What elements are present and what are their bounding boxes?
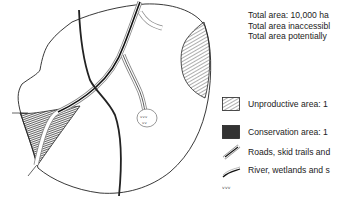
road-line-icon — [222, 144, 242, 160]
svg-text:ᵥᵥ: ᵥᵥ — [142, 118, 148, 125]
unproductive-area — [181, 22, 210, 98]
river — [79, 10, 121, 196]
legend-unproductive: Unproductive area: 1 — [222, 96, 240, 112]
legend-conservation: Conservation area: 1 — [222, 124, 240, 140]
wetland-symbol-icon: ᵥᵥᵥ — [222, 181, 242, 191]
stat-inaccessible: Total area inaccessibl — [248, 21, 330, 32]
legend-river: River, wetlands and s — [222, 162, 242, 178]
dense-hatch-icon — [222, 125, 240, 139]
stat-potential: Total area potentially — [248, 31, 330, 42]
river-line-icon — [222, 162, 242, 178]
forest-boundary — [18, 4, 211, 193]
legend-wetland: ᵥᵥᵥ — [222, 178, 242, 194]
svg-text:ᵥᵥᵥ: ᵥᵥᵥ — [222, 183, 231, 191]
forest-map: ᵥᵥᵥ ᵥᵥ — [0, 0, 215, 201]
stat-total-area: Total area: 10,000 ha — [248, 10, 330, 21]
light-hatch-icon — [222, 97, 240, 111]
conservation-area — [20, 106, 80, 166]
area-stats: Total area: 10,000 ha Total area inacces… — [248, 10, 330, 42]
legend-roads: Roads, skid trails and — [222, 144, 242, 160]
